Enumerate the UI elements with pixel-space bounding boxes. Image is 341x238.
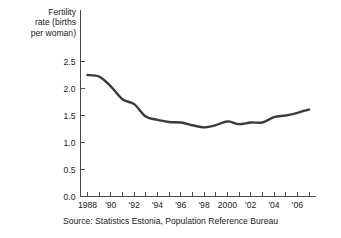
fertility-rate-series-line xyxy=(88,75,310,127)
x-axis: 1988'90'92'94'96'982000'02'04'06 xyxy=(78,192,316,210)
y-tick-label: 2.5 xyxy=(64,57,76,67)
y-tick-label: 2.0 xyxy=(64,84,76,94)
x-tick-label: '04 xyxy=(268,200,279,210)
fertility-rate-line-chart: Fertility rate (births per woman) 0.00.5… xyxy=(0,0,341,238)
y-axis: 0.00.51.01.52.02.5 xyxy=(64,10,85,202)
y-tick-label: 1.5 xyxy=(64,111,76,121)
y-tick-label: 1.0 xyxy=(64,138,76,148)
y-tick-label: 0.5 xyxy=(64,165,76,175)
x-tick-label: '98 xyxy=(198,200,209,210)
y-tick-label: 0.0 xyxy=(64,192,76,202)
x-tick-label: '92 xyxy=(129,200,140,210)
x-tick-label: '06 xyxy=(292,200,303,210)
x-tick-label: '90 xyxy=(105,200,116,210)
source-note: Source: Statistics Estonia, Population R… xyxy=(0,216,341,226)
x-tick-group: 1988'90'92'94'96'982000'02'04'06 xyxy=(78,192,309,210)
plot-area: 0.00.51.01.52.02.5 1988'90'92'94'96'9820… xyxy=(0,0,341,238)
x-tick-label: '96 xyxy=(175,200,186,210)
x-tick-label: '02 xyxy=(245,200,256,210)
x-tick-label: '94 xyxy=(152,200,163,210)
y-tick-group: 0.00.51.01.52.02.5 xyxy=(64,57,85,202)
x-tick-label: 1988 xyxy=(78,200,97,210)
x-tick-label: 2000 xyxy=(218,200,237,210)
